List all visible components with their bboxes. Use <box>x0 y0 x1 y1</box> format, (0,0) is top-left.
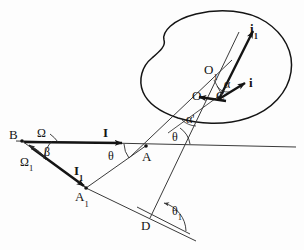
label-angle-theta-right: θ <box>172 131 178 143</box>
line-A1-to-A <box>86 145 147 188</box>
label-point-O: O <box>192 89 201 102</box>
angle-arc-theta-right <box>180 128 190 144</box>
label-vector-I-1: I1 <box>74 164 83 180</box>
label-point-O-1: O1 <box>204 63 218 79</box>
label-point-A-1: A1 <box>75 190 89 206</box>
label-angle-theta-left: θ <box>108 150 114 162</box>
label-point-B: B <box>9 128 18 141</box>
label-angle-alpha: α <box>224 78 230 90</box>
label-point-D: D <box>141 219 150 232</box>
geometry-figure-svg <box>0 0 304 250</box>
label-vector-i-1: i1 <box>250 22 258 38</box>
label-angle-beta: β <box>44 146 50 158</box>
figure-canvas: B Ω Ω1 β I I1 A A1 θ θ θ1 D O O1 C i i1 … <box>0 0 304 250</box>
label-vector-i: i <box>249 76 253 89</box>
point-A-dot <box>144 144 148 148</box>
label-angle-theta-1: θ1 <box>172 205 182 220</box>
vector-I-arrow <box>24 142 122 143</box>
label-angle-omega: Ω <box>37 127 46 139</box>
point-B-dot <box>20 139 24 143</box>
label-vector-I: I <box>103 126 108 139</box>
label-angle-omega-1: Ω1 <box>20 156 33 171</box>
label-angle-alpha-prime: α' <box>186 113 194 125</box>
angle-arc-omega <box>50 134 58 142</box>
angle-arc-theta-left <box>124 144 129 158</box>
label-point-A: A <box>142 150 151 163</box>
